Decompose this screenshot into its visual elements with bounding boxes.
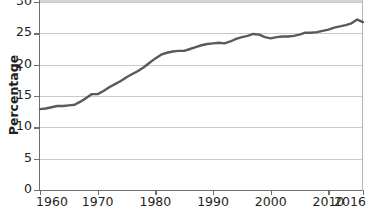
- x-tick-label: 1990: [197, 196, 229, 209]
- y-tick-label: 25: [4, 26, 32, 39]
- x-tick-label: 1980: [139, 196, 171, 209]
- y-tick-label: 0: [4, 183, 32, 196]
- series-line-percentage: [40, 20, 363, 110]
- y-tick-label: 15: [4, 89, 32, 102]
- x-tick-label: 2016: [334, 196, 366, 209]
- x-tick-label: 1960: [36, 196, 68, 209]
- series-line-svg: [40, 2, 363, 190]
- line-chart: Percentage 051015202530 1960197019801990…: [0, 0, 377, 215]
- y-tick-label: 20: [4, 58, 32, 71]
- x-tick-label: 1970: [82, 196, 114, 209]
- y-tick-label: 30: [4, 0, 32, 8]
- plot-area: [40, 2, 363, 190]
- x-tick-label: 2000: [255, 196, 287, 209]
- y-tick-label: 5: [4, 152, 32, 165]
- y-tick-label: 10: [4, 120, 32, 133]
